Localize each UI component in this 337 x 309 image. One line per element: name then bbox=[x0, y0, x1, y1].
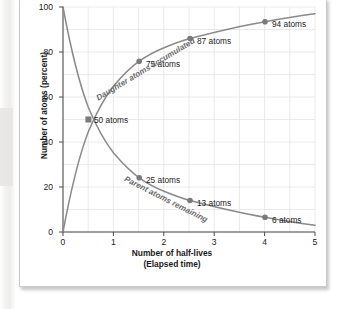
x-tick-label-2: 2 bbox=[154, 237, 174, 247]
annotation-94-atoms: 94 atoms bbox=[272, 19, 306, 29]
marker-parent-13 bbox=[187, 198, 193, 204]
x-tick-marks bbox=[63, 232, 315, 236]
figure-screenshot: 100 80 60 40 20 0 0 1 2 3 4 5 50 atoms 7… bbox=[0, 0, 337, 309]
marker-crossing-50 bbox=[85, 117, 91, 123]
marker-parent-6 bbox=[262, 215, 268, 221]
x-tick-label-0: 0 bbox=[53, 237, 73, 247]
x-tick-label-3: 3 bbox=[204, 237, 224, 247]
annotation-50-atoms: 50 atoms bbox=[94, 115, 128, 125]
annotation-13-atoms: 13 atoms bbox=[197, 198, 231, 208]
half-life-decay-chart: 100 80 60 40 20 0 0 1 2 3 4 5 50 atoms 7… bbox=[19, 0, 325, 285]
marker-daughter-94 bbox=[262, 19, 268, 25]
x-axis-title-line1: Number of half-lives bbox=[132, 248, 213, 258]
y-tick-label-100: 100 bbox=[27, 2, 53, 12]
x-axis-title: Number of half-lives (Elapsed time) bbox=[19, 248, 325, 269]
annotation-6-atoms: 6 atoms bbox=[272, 215, 302, 225]
y-tick-label-0: 0 bbox=[27, 227, 53, 237]
marker-daughter-75 bbox=[136, 58, 142, 64]
x-axis-title-line2: (Elapsed time) bbox=[19, 259, 325, 270]
annotation-87-atoms: 87 atoms bbox=[197, 36, 231, 46]
y-tick-marks bbox=[59, 7, 63, 232]
annotation-25-atoms: 25 atoms bbox=[146, 175, 180, 185]
x-tick-label-5: 5 bbox=[305, 237, 325, 247]
y-axis-title: Number of atoms (percent) bbox=[40, 36, 49, 176]
x-tick-label-1: 1 bbox=[103, 237, 123, 247]
x-tick-label-4: 4 bbox=[255, 237, 275, 247]
y-tick-label-20: 20 bbox=[27, 182, 53, 192]
page-gutter-smudge bbox=[0, 108, 13, 186]
